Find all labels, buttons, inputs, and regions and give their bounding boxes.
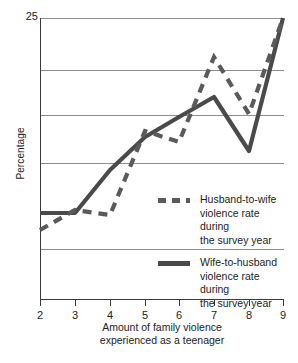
x-tick-label-4: 4 [99, 309, 121, 321]
x-tick-label-5: 5 [134, 309, 156, 321]
x-axis-title-line-2: experienced as a teenager [40, 334, 284, 347]
x-tick-5 [145, 300, 146, 306]
legend-item-husband-to-wife: Husband-to-wife violence rate during the… [158, 193, 288, 247]
x-tick-3 [75, 300, 76, 306]
legend-label-husband-to-wife: Husband-to-wife violence rate during the… [200, 193, 288, 247]
legend-label-line-3: the survey year [200, 297, 288, 311]
x-tick-4 [110, 300, 111, 306]
x-axis-title: Amount of family violence experienced as… [40, 321, 284, 347]
x-axis-title-line-1: Amount of family violence [40, 321, 284, 334]
chart-figure: 25 Percentage 2 3 4 5 6 7 8 9 [0, 0, 298, 363]
legend-swatch-solid-icon [158, 261, 190, 266]
legend-label-line-1: Wife-to-husband [200, 256, 288, 270]
legend-label-line-2: violence rate during [200, 270, 288, 297]
legend-swatch-dashed-icon [158, 198, 190, 203]
x-tick-label-3: 3 [64, 309, 86, 321]
legend-label-line-1: Husband-to-wife [200, 193, 288, 207]
legend-label-line-3: the survey year [200, 234, 288, 248]
legend-item-wife-to-husband: Wife-to-husband violence rate during the… [158, 256, 288, 310]
series-wife-to-husband-line [40, 18, 283, 213]
y-axis-title: Percentage [15, 106, 26, 202]
legend-label-line-2: violence rate during [200, 207, 288, 234]
x-tick-label-2: 2 [29, 309, 51, 321]
chart-legend: Husband-to-wife violence rate during the… [158, 193, 288, 319]
x-tick-2 [40, 300, 41, 306]
y-axis-tick-label-25: 25 [18, 10, 38, 22]
legend-label-wife-to-husband: Wife-to-husband violence rate during the… [200, 256, 288, 310]
